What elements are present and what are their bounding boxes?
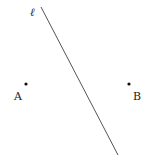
point-a-label: A: [13, 90, 23, 103]
point-b-label: B: [133, 90, 141, 103]
diagram-canvas: ℓ A B: [0, 0, 152, 157]
line-l-label: ℓ: [30, 6, 35, 19]
geometry-figure: ℓ A B: [0, 0, 152, 157]
point-a: [24, 82, 27, 85]
point-b: [127, 82, 130, 85]
line-l: [41, 7, 118, 155]
